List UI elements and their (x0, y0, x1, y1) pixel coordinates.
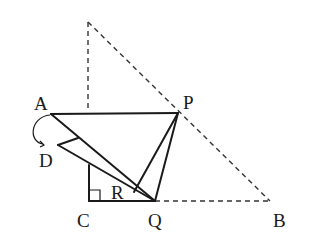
segment-AP (51, 113, 178, 114)
right-angle-marker (89, 190, 100, 201)
segment-AQ (51, 114, 155, 201)
label-C: C (77, 210, 90, 231)
segment-D-to-AQ (58, 138, 78, 145)
fold-arc-A-to-D (33, 115, 50, 144)
label-Q: Q (148, 210, 162, 231)
segment-PQ (155, 113, 178, 201)
label-R: R (111, 182, 124, 203)
segment-DQ (58, 145, 155, 201)
label-B: B (273, 210, 286, 231)
label-A: A (34, 93, 48, 114)
dashed-hypotenuse-edge (88, 22, 270, 201)
label-D: D (39, 150, 53, 171)
label-P: P (183, 92, 194, 113)
geometry-diagram: A P D R C Q B (0, 0, 309, 236)
segment-PR (134, 113, 178, 192)
